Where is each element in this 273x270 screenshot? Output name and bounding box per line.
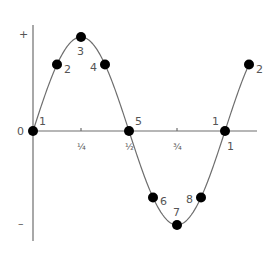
data-point [52, 60, 62, 70]
data-point-label: 5 [135, 115, 142, 128]
y-tick-label-plus: + [19, 28, 28, 41]
data-point [28, 126, 38, 136]
data-point-label: 1 [212, 115, 219, 128]
x-ticks: ¼½¾1 [77, 128, 234, 153]
data-point [124, 126, 134, 136]
data-point-label: 4 [90, 61, 97, 74]
data-point-label: 6 [160, 195, 167, 208]
data-point [220, 126, 230, 136]
data-point [148, 192, 158, 202]
x-tick-label: ¾ [173, 142, 182, 152]
data-point [76, 32, 86, 42]
y-tick-label-minus: – [18, 217, 24, 230]
x-tick-label: 1 [227, 140, 234, 153]
data-point [196, 192, 206, 202]
sine-wave-chart: + 0 – ¼½¾1 1234567812 [0, 0, 273, 270]
data-point-label: 3 [77, 45, 84, 58]
y-tick-label-zero: 0 [17, 125, 24, 138]
data-point-label: 7 [173, 206, 180, 219]
data-point-label: 1 [39, 115, 46, 128]
data-point [172, 220, 182, 230]
data-point [100, 60, 110, 70]
x-tick-label: ¼ [77, 142, 86, 152]
data-point-label: 2 [256, 63, 263, 76]
data-point-label: 8 [186, 193, 193, 206]
data-point-label: 2 [64, 63, 71, 76]
data-point [244, 60, 254, 70]
